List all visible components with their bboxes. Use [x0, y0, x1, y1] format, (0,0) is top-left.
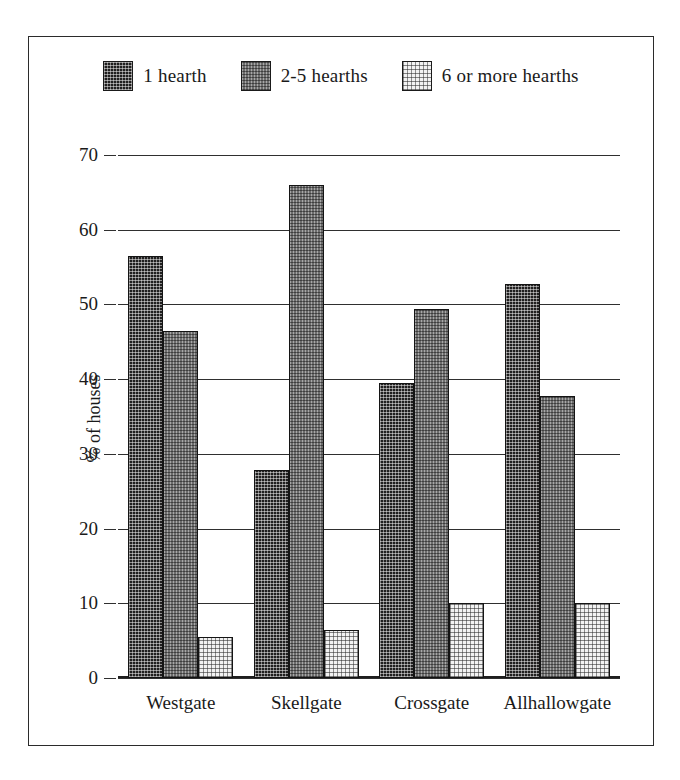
y-tick-mark-50	[104, 304, 116, 305]
bar-skellgate-series-1	[254, 470, 289, 678]
bar-groups: WestgateSkellgateCrossgateAllhallowgate	[118, 155, 620, 678]
y-tick-mark-70	[104, 155, 116, 156]
y-tick-label-10: 10	[79, 592, 98, 614]
x-tick-label-allhallowgate: Allhallowgate	[503, 692, 611, 714]
bar-allhallowgate-series-3	[575, 603, 610, 678]
bar-westgate-series-3	[198, 637, 233, 678]
y-tick-mark-0	[104, 678, 116, 679]
bar-allhallowgate-series-2	[540, 396, 575, 678]
x-tick-label-crossgate: Crossgate	[394, 692, 469, 714]
y-tick-mark-60	[104, 230, 116, 231]
y-tick-mark-10	[104, 603, 116, 604]
y-tick-label-30: 30	[79, 442, 98, 464]
y-tick-label-70: 70	[79, 144, 98, 166]
y-tick-label-60: 60	[79, 218, 98, 240]
y-tick-label-50: 50	[79, 293, 98, 315]
plot-area-wrapper: % of houses 706050403020100 WestgateSkel…	[28, 36, 654, 746]
bar-crossgate-series-1	[379, 383, 414, 678]
y-tick-mark-30	[104, 454, 116, 455]
bar-group-westgate: Westgate	[118, 155, 244, 678]
y-tick-label-0: 0	[89, 667, 99, 689]
bar-crossgate-series-2	[414, 309, 449, 678]
gridline-0	[118, 678, 620, 679]
bar-westgate-series-1	[128, 256, 163, 678]
x-tick-label-westgate: Westgate	[146, 692, 215, 714]
chart-page: 1 hearth 2-5 hearths 6 or more hearths %…	[0, 0, 680, 780]
bar-skellgate-series-3	[324, 630, 359, 678]
bar-group-allhallowgate: Allhallowgate	[495, 155, 621, 678]
y-tick-mark-20	[104, 529, 116, 530]
bar-allhallowgate-series-1	[505, 284, 540, 678]
y-tick-mark-40	[104, 379, 116, 380]
bar-group-skellgate: Skellgate	[244, 155, 370, 678]
y-tick-label-40: 40	[79, 368, 98, 390]
plot-area: 706050403020100 WestgateSkellgateCrossga…	[118, 155, 620, 678]
bar-westgate-series-2	[163, 331, 198, 678]
bar-crossgate-series-3	[449, 603, 484, 678]
bar-group-crossgate: Crossgate	[369, 155, 495, 678]
bar-skellgate-series-2	[289, 185, 324, 678]
y-tick-label-20: 20	[79, 517, 98, 539]
x-tick-label-skellgate: Skellgate	[271, 692, 342, 714]
y-axis-title: % of houses	[84, 319, 105, 519]
